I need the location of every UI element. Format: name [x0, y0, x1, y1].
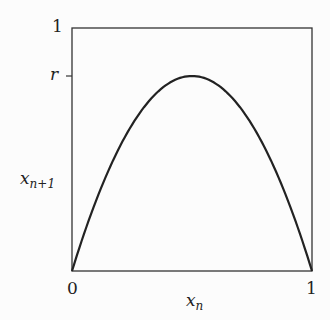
parabola-curve — [72, 76, 312, 271]
y-tick-r: r — [50, 64, 58, 84]
x-axis-label: xn — [186, 290, 203, 313]
y-axis-label: xn+1 — [20, 168, 55, 191]
x-tick-1: 1 — [306, 278, 317, 298]
x-tick-0: 0 — [67, 278, 78, 298]
logistic-map-plot — [0, 0, 330, 320]
y-tick-1: 1 — [52, 16, 63, 36]
plot-frame — [72, 28, 312, 271]
